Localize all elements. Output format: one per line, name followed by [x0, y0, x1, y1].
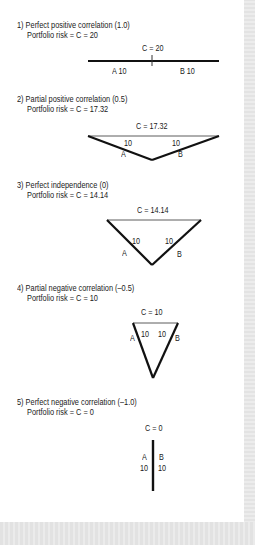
diagram-1-perfect-positive	[88, 55, 219, 66]
section-1-risk: Portfolio risk = C = 20	[27, 30, 98, 40]
section-5-a-label: A	[142, 453, 147, 462]
section-4-a-label: A	[130, 334, 135, 343]
section-5-b-label: B	[159, 453, 164, 462]
diagram-2-partial-positive	[88, 136, 219, 160]
section-3-b-label: B	[177, 250, 182, 259]
section-2-b-value: 10	[172, 139, 180, 148]
section-4-c-label: C = 10	[141, 308, 162, 317]
correlation-diagrams	[0, 0, 255, 557]
section-4-a-value: 10	[141, 330, 149, 339]
section-4-b-value: 10	[158, 330, 166, 339]
section-1-b-label: B 10	[180, 67, 195, 76]
diagram-3-independence	[107, 220, 201, 265]
line-a	[107, 220, 152, 265]
section-2-a-label: A	[121, 150, 126, 159]
section-2-b-label: B	[178, 150, 183, 159]
section-3-c-label: C = 14.14	[137, 206, 169, 215]
line-a	[88, 136, 152, 160]
diagram-4-partial-negative	[133, 323, 178, 378]
section-4-risk: Portfolio risk = C = 10	[27, 293, 98, 303]
section-5-risk: Portfolio risk = C = 0	[27, 407, 94, 417]
section-1-c-label: C = 20	[142, 44, 163, 53]
section-3-a-label: A	[122, 249, 127, 258]
section-2-c-label: C = 17.32	[136, 122, 168, 131]
line-b	[152, 136, 219, 160]
section-5-c-label: C = 0	[145, 424, 162, 433]
section-5-b-value: 10	[158, 464, 166, 473]
section-1-a-label: A 10	[112, 67, 126, 76]
section-3-a-value: 10	[132, 237, 140, 246]
section-5-a-value: 10	[140, 464, 148, 473]
section-3-heading: 3) Perfect independence (0)	[17, 180, 108, 190]
section-2-risk: Portfolio risk = C = 17.32	[27, 104, 108, 114]
section-5-heading: 5) Perfect negative correlation (–1.0)	[17, 397, 137, 407]
section-3-risk: Portfolio risk = C = 14.14	[27, 190, 108, 200]
section-1-heading: 1) Perfect positive correlation (1.0)	[17, 20, 130, 30]
section-2-a-value: 10	[124, 139, 132, 148]
section-2-heading: 2) Partial positive correlation (0.5)	[17, 94, 127, 104]
section-4-b-label: B	[175, 334, 180, 343]
section-3-b-value: 10	[165, 237, 173, 246]
section-4-heading: 4) Partial negative correlation (–0.5)	[17, 283, 134, 293]
